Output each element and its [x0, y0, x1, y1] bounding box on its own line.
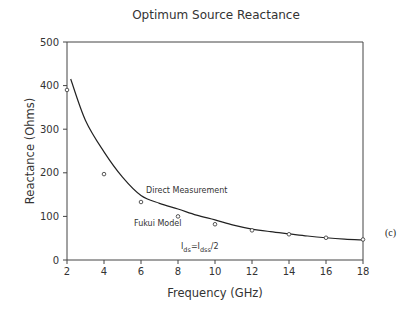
data-point [139, 200, 143, 204]
annotation-direct-measurement: Direct Measurement [146, 186, 227, 195]
chart: Optimum Source Reactance 010020030040050… [0, 0, 415, 314]
data-point [102, 172, 106, 176]
y-tick-label: 100 [40, 211, 59, 222]
x-tick-label: 16 [320, 266, 333, 277]
y-tick-label: 300 [40, 124, 59, 135]
data-point [250, 229, 254, 233]
y-tick-label: 0 [53, 255, 59, 266]
x-tick-label: 10 [209, 266, 222, 277]
data-point [176, 215, 180, 219]
y-tick-label: 400 [40, 80, 59, 91]
x-axis-label: Frequency (GHz) [167, 286, 263, 300]
y-axis-label: Reactance (Ohms) [23, 98, 37, 204]
y-ticks: 0100200300400500 [40, 37, 67, 266]
data-point [287, 232, 291, 236]
x-tick-label: 12 [246, 266, 259, 277]
x-ticks: 24681012141618 [64, 260, 370, 277]
data-point [213, 222, 217, 226]
bias-tail: /2 [211, 242, 219, 251]
x-tick-label: 14 [283, 266, 296, 277]
y-tick-label: 500 [40, 37, 59, 48]
y-tick-label: 200 [40, 167, 59, 178]
data-point [65, 88, 69, 92]
x-tick-label: 6 [138, 266, 144, 277]
annotation-bias-condition: Ids=Idss/2 [181, 242, 219, 254]
annotation-fukui-model: Fukui Model [134, 219, 181, 228]
x-tick-label: 8 [175, 266, 181, 277]
chart-title: Optimum Source Reactance [132, 8, 300, 22]
bias-sub-dss: dss [200, 246, 212, 254]
bias-eq: =I [191, 242, 200, 251]
data-point [361, 238, 365, 242]
x-tick-label: 4 [101, 266, 107, 277]
axes [67, 42, 363, 260]
data-point [324, 236, 328, 240]
x-tick-label: 2 [64, 266, 70, 277]
x-tick-label: 18 [357, 266, 370, 277]
direct-measurement-points [65, 88, 365, 241]
fukui-model-curve [71, 79, 363, 240]
panel-label: (c) [385, 227, 396, 239]
